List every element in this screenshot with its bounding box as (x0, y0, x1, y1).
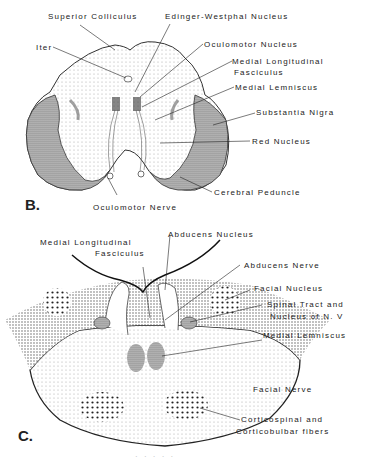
label-iter: Iter (36, 43, 52, 53)
midbrain-section (26, 42, 228, 191)
label-facial-nucleus: Facial Nucleus (254, 284, 323, 294)
label-substantia-nigra: Substantia Nigra (256, 108, 334, 118)
label-spinal-tract-line2: Nucleus of N. V (270, 312, 344, 322)
label-red-nucleus: Red Nucleus (252, 137, 311, 147)
label-mlf-c-line2: Fasciculus (95, 249, 145, 259)
label-abducens-nerve: Abducens Nerve (244, 261, 320, 271)
label-facial-nerve: Facial Nerve (253, 385, 312, 395)
label-superior-colliculus: Superior Colliculus (48, 12, 138, 22)
label-cerebral-peduncle: Cerebral Peduncle (214, 188, 301, 198)
label-oculomotor-nucleus: Oculomotor Nucleus (204, 40, 298, 50)
label-mlf-line1: Medial Longitudinal (232, 57, 324, 67)
panel-label-b: B. (25, 196, 40, 213)
label-corticospinal-line1: Corticospinal and (241, 415, 323, 425)
label-mlf-line2: Fasciculus (234, 68, 284, 78)
label-oculomotor-nerve: Oculomotor Nerve (93, 203, 177, 213)
label-edinger-westphal-nucleus: Edinger-Westphal Nucleus (165, 12, 288, 22)
label-corticospinal-line2: Corticobulbar fibers (236, 427, 329, 437)
caption: · · · · · (135, 452, 175, 461)
label-mlf-c-line1: Medial Longitudinal (40, 238, 132, 248)
panel-label-c: C. (18, 427, 33, 444)
label-spinal-tract-line1: Spinal Tract and (267, 300, 344, 310)
label-medial-lemniscus-b: Medial Lemniscus (235, 83, 318, 93)
label-medial-lemniscus-c: Medial Lemniscus (263, 331, 346, 341)
label-abducens-nucleus: Abducens Nucleus (168, 230, 254, 240)
